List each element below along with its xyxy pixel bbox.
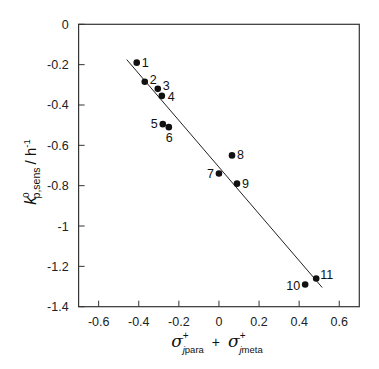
data-point-marker [166,124,173,131]
data-point-marker [154,86,161,93]
y-tick-label: -0.2 [47,58,69,72]
y-tick-label: -1.4 [47,300,69,314]
data-point-label: 8 [237,148,244,162]
data-point-marker [229,152,236,159]
y-tick-label: -1 [57,220,68,234]
y-tick-label: 0 [62,18,69,32]
x-axis-ticks: -0.6-0.4-0.200.20.40.6 [88,301,348,329]
data-point-label: 11 [320,268,333,282]
data-point-label: 2 [150,73,157,87]
x-axis-title: σ+jpara+σ+jmeta [171,330,263,355]
data-point-label: 9 [242,177,249,191]
data-point-label: 7 [207,167,214,181]
data-point-label: 4 [168,90,175,104]
y-tick-label: -1.2 [47,260,69,274]
plot-frame [79,24,360,306]
data-point-marker [313,275,320,282]
x-tick-label: 0 [215,315,222,329]
data-point-marker [216,170,223,177]
data-point-marker [160,121,167,128]
data-point-label: 6 [166,131,173,145]
y-tick-label: -0.6 [47,139,69,153]
y-tick-label: -0.4 [47,98,69,112]
data-point-marker [141,78,148,85]
x-tick-label: -0.2 [168,315,190,329]
x-tick-label: 0.4 [290,315,307,329]
data-point-label: 5 [151,117,158,131]
y-axis-title: k0p,sens/ h-1 [20,139,42,204]
data-point-marker [159,93,166,100]
x-tick-label: 0.6 [331,315,348,329]
data-point-marker [302,281,309,288]
scatter-chart: -0.6-0.4-0.200.20.40.6 0-0.2-0.4-0.6-0.8… [0,0,379,369]
data-point-marker [234,180,241,187]
x-tick-label: -0.6 [88,315,110,329]
regression-line [127,60,322,288]
data-point-marker [133,59,140,66]
data-points: 1234567891011 [133,56,333,293]
y-tick-label: -0.8 [47,179,69,193]
x-tick-label: -0.4 [128,315,150,329]
data-point-label: 10 [286,279,300,293]
data-point-label: 1 [142,56,149,70]
x-tick-label: 0.2 [250,315,267,329]
